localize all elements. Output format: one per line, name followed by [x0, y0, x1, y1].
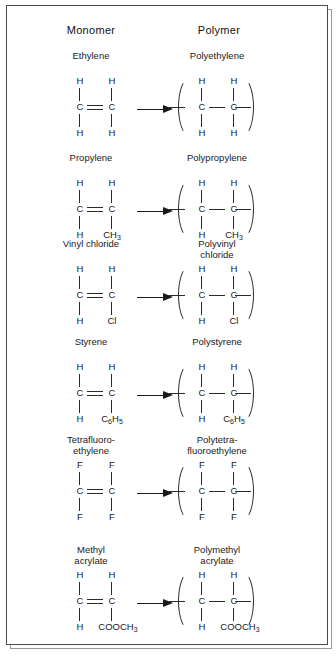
arrow-shaft	[137, 297, 165, 298]
bond-vertical-bottom-left	[201, 114, 202, 127]
atom-top-left: H	[67, 264, 93, 274]
polymer-structure: HHCCHCH3	[183, 178, 269, 240]
structure-grid: FFCCFF	[61, 460, 147, 522]
atom-carbon-right: C	[99, 102, 125, 112]
repeat-unit-paren-right	[241, 76, 255, 138]
atom-carbon-left: C	[67, 596, 93, 606]
monomer-name: Methyl acrylate	[31, 544, 151, 566]
bond-vertical-top-left	[79, 374, 80, 387]
atom-bottom-left: F	[67, 512, 93, 522]
structure-grid: HHCCHH	[61, 76, 147, 138]
polymer-structure: HHCCHCOOCH3	[183, 570, 269, 632]
reaction-row: Vinyl chloridePolyvinyl chlorideHHCCHClH…	[7, 238, 329, 338]
monomer-name: Vinyl chloride	[31, 238, 151, 249]
atom-carbon-left: C	[67, 486, 93, 496]
arrow-shaft	[137, 211, 165, 212]
structure-grid: HHCCHCl	[183, 264, 269, 326]
repeat-unit-paren-left	[177, 76, 191, 138]
bond-vertical-top-left	[79, 276, 80, 289]
repeat-unit-paren-left	[177, 178, 191, 240]
atom-top-left: H	[189, 362, 215, 372]
bond-vertical-top-right	[233, 88, 234, 101]
column-headers: Monomer Polymer	[7, 24, 327, 42]
polymer-structure: FFCCFF	[183, 460, 269, 522]
bond-carbon-carbon-double-upper	[87, 599, 103, 600]
bond-carbon-carbon-double-lower	[87, 211, 103, 212]
atom-bottom-right: F	[99, 512, 125, 522]
atom-bottom-left: F	[189, 512, 215, 522]
monomer-name: Tetrafluoro- ethylene	[31, 434, 151, 456]
repeat-unit-paren-left	[177, 362, 191, 424]
bond-vertical-bottom-left	[79, 608, 80, 621]
reaction-row: EthylenePolyethyleneHHCCHHHHCCHH	[7, 50, 329, 150]
bond-vertical-bottom-left	[79, 216, 80, 229]
repeat-unit-paren-right	[241, 264, 255, 326]
bond-vertical-top-right	[111, 374, 112, 387]
repeat-unit-paren-left	[177, 460, 191, 522]
atom-top-left: H	[189, 570, 215, 580]
bond-carbon-carbon-single	[209, 491, 225, 492]
polymer-name: Polystyrene	[157, 336, 277, 347]
repeat-unit-paren-left	[177, 264, 191, 326]
polymer-structure: HHCCHCl	[183, 264, 269, 326]
monomer-structure: HHCCHC6H5	[61, 362, 147, 424]
repeat-unit-paren-right	[241, 362, 255, 424]
bond-vertical-top-right	[111, 88, 112, 101]
bond-vertical-bottom-right	[111, 498, 112, 511]
bond-vertical-top-right	[111, 472, 112, 485]
atom-carbon-right: C	[99, 204, 125, 214]
bond-vertical-bottom-left	[79, 302, 80, 315]
reaction-row: PropylenePolypropyleneHHCCHCH3HHCCHCH3	[7, 152, 329, 252]
atom-top-right: H	[99, 178, 125, 188]
atom-carbon-right: C	[99, 596, 125, 606]
bond-vertical-bottom-right	[111, 114, 112, 127]
polymer-name: Polyethylene	[157, 50, 277, 61]
bond-carbon-carbon-single	[209, 601, 225, 602]
bond-vertical-top-left	[201, 472, 202, 485]
atom-bottom-left: H	[67, 128, 93, 138]
polymer-name: Polytetra- fluoroethylene	[157, 434, 277, 456]
bond-carbon-carbon-double-upper	[87, 391, 103, 392]
monomer-structure: HHCCHCl	[61, 264, 147, 326]
bond-carbon-carbon-single	[209, 393, 225, 394]
atom-top-right: H	[99, 570, 125, 580]
bond-vertical-top-left	[79, 472, 80, 485]
atom-top-left: H	[67, 76, 93, 86]
bond-carbon-carbon-single	[209, 107, 225, 108]
bond-carbon-carbon-double-upper	[87, 489, 103, 490]
atom-bottom-left: H	[189, 622, 215, 632]
structure-grid: HHCCHC6H5	[61, 362, 147, 424]
repeat-unit-paren-right	[241, 178, 255, 240]
atom-bottom-left: H	[189, 414, 215, 424]
atom-carbon-left: C	[67, 290, 93, 300]
column-header-polymer: Polymer	[159, 24, 279, 36]
bond-vertical-bottom-left	[79, 498, 80, 511]
atom-bottom-right: C6H5	[99, 414, 125, 425]
bond-carbon-carbon-double-upper	[87, 105, 103, 106]
bond-carbon-carbon-single	[209, 295, 225, 296]
arrow-shaft	[137, 109, 165, 110]
bond-vertical-bottom-right	[111, 400, 112, 413]
structure-grid: HHCCHC6H5	[183, 362, 269, 424]
atom-bottom-left: H	[67, 316, 93, 326]
bond-vertical-bottom-right	[233, 114, 234, 127]
polymer-name: Polyvinyl chloride	[157, 238, 277, 260]
atom-carbon-left: C	[67, 388, 93, 398]
bond-vertical-top-left	[79, 88, 80, 101]
column-header-monomer: Monomer	[31, 24, 151, 36]
arrow-shaft	[137, 603, 165, 604]
atom-top-left: H	[67, 178, 93, 188]
structure-grid: HHCCHCOOCH3	[61, 570, 147, 632]
bond-carbon-carbon-double-lower	[87, 395, 103, 396]
repeat-unit-paren-right	[241, 570, 255, 632]
atom-top-left: H	[67, 362, 93, 372]
atom-top-left: H	[189, 76, 215, 86]
atom-top-left: H	[189, 178, 215, 188]
bond-carbon-carbon-double-lower	[87, 493, 103, 494]
bond-vertical-bottom-left	[79, 114, 80, 127]
atom-top-right: H	[99, 362, 125, 372]
bond-vertical-top-right	[233, 190, 234, 203]
bond-vertical-bottom-right	[233, 400, 234, 413]
monomer-structure: HHCCHCOOCH3	[61, 570, 147, 632]
bond-vertical-top-right	[233, 582, 234, 595]
